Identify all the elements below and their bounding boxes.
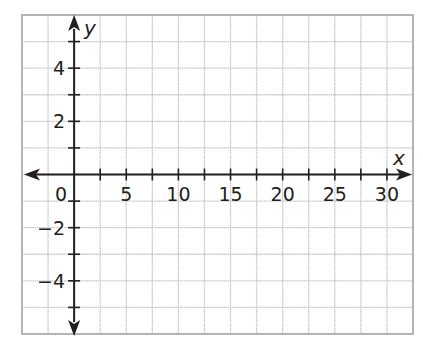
x-tick-label: 30 [375, 183, 399, 205]
x-tick-label: 20 [271, 183, 295, 205]
x-tick-label: 25 [323, 183, 347, 205]
y-tick-label: 4 [53, 57, 65, 79]
y-tick-label: 2 [53, 110, 65, 132]
x-tick-label: 5 [120, 183, 132, 205]
x-tick-label: 15 [218, 183, 242, 205]
y-axis-label: y [83, 16, 97, 40]
x-axis-label: x [392, 146, 405, 170]
y-tick-label: −4 [37, 270, 65, 292]
x-tick-label: 10 [166, 183, 190, 205]
axes [24, 15, 412, 336]
y-tick-label: −2 [37, 217, 65, 239]
coordinate-grid: 051015202530 42−2−4 x y [0, 0, 423, 353]
x-tick-label: 0 [55, 183, 67, 205]
